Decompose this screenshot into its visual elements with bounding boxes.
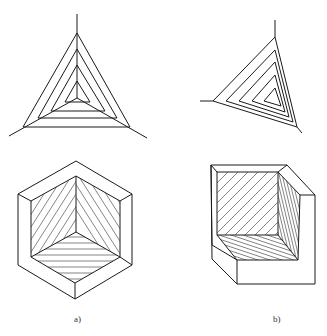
panel-label-a: a) (74, 314, 81, 324)
triangle-3 (239, 62, 289, 117)
corner-edge-left (31, 232, 76, 257)
triangle-inner (264, 88, 281, 106)
triangle-outer (213, 37, 297, 127)
left-step-edge (212, 245, 237, 260)
hexagon-cube-a (0, 150, 172, 299)
left-face-hatch (0, 150, 128, 260)
left-axis (9, 98, 77, 136)
right-step-edge (120, 257, 132, 265)
diagonal-axis (297, 127, 302, 133)
back-face-hatch (200, 160, 300, 245)
triangle-diagram-a (9, 14, 147, 138)
triangle-3 (51, 65, 105, 111)
figure-canvas (0, 0, 327, 336)
right-face-hatch (38, 150, 172, 260)
panel-label-b: b) (273, 314, 281, 324)
left-outer-edge (211, 165, 212, 245)
inner-top-edge (211, 165, 287, 172)
outer-hexagon (18, 161, 132, 299)
inner-top-edge (18, 176, 132, 201)
triangle-diagram-b (200, 20, 302, 133)
oblique-cube-b (200, 160, 315, 284)
